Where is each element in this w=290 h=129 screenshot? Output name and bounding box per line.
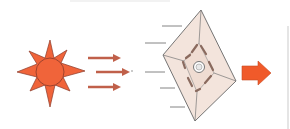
dot	[131, 70, 133, 72]
light-rays	[88, 54, 130, 91]
solar-sail-diagram	[0, 0, 290, 129]
block-arrow-right-icon	[242, 61, 271, 85]
kite-sail-icon	[163, 10, 236, 121]
arrow-right-icon	[88, 83, 121, 91]
arrow-right-icon	[88, 54, 121, 62]
sun-icon	[17, 40, 85, 107]
arrow-right-icon	[96, 68, 130, 76]
